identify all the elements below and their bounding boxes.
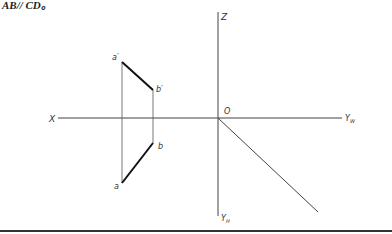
front-view-segment-ab [122, 62, 153, 90]
auxiliary-45-line [218, 118, 318, 212]
projection-diagram: X Z O YW YH a′ b′ a b [0, 0, 392, 234]
z-axis-label: Z [220, 12, 228, 22]
yh-axis-label: YH [221, 214, 230, 224]
origin-label: O [224, 107, 230, 116]
point-b-prime-label: b′ [156, 85, 163, 94]
point-a-prime-label: a′ [112, 53, 119, 62]
point-a-label: a [114, 182, 119, 191]
top-view-segment-ab [122, 143, 153, 183]
point-b-label: b [158, 142, 163, 151]
yw-axis-label: YW [345, 114, 356, 124]
bottom-divider [0, 230, 392, 232]
x-axis-label: X [48, 114, 56, 124]
